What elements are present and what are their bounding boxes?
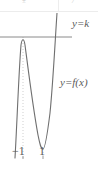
label-y-equals-f-of-x: y=f(x) bbox=[60, 77, 88, 88]
axis-tick-label-minus-one: −1 bbox=[12, 145, 25, 157]
axis-tick-label-one: 1 bbox=[39, 145, 45, 157]
table-cell-right: / bbox=[72, 0, 74, 5]
math-figure: ± / y=k y=f(x) −1 1 bbox=[0, 0, 98, 175]
table-rule bbox=[0, 11, 98, 12]
curve-y-equals-f-of-x bbox=[15, 13, 57, 158]
table-column-divider bbox=[58, 0, 59, 11]
table-cell-left: ± bbox=[22, 0, 26, 5]
label-y-equals-k: y=k bbox=[72, 18, 89, 29]
truncated-table-row: ± / bbox=[0, 0, 98, 13]
